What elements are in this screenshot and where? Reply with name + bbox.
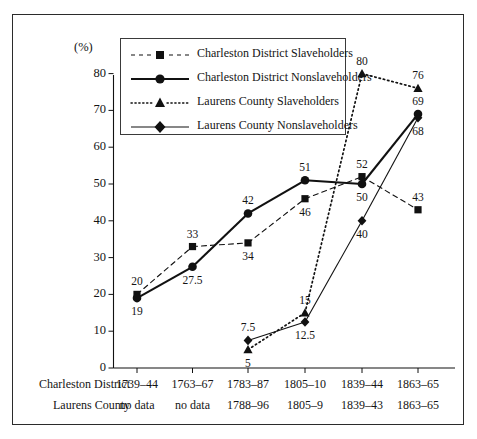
data-point-label: 51 <box>296 161 314 173</box>
legend-label-1: Charleston District Nonslaveholders <box>197 70 372 85</box>
data-point <box>358 173 365 180</box>
data-point-label: 12.5 <box>290 329 321 341</box>
data-point-label: 27.5 <box>177 274 208 286</box>
legend-item-0: Charleston District Slaveholders <box>121 43 347 67</box>
data-point-label: 52 <box>353 158 371 170</box>
y-tick-label: 20 <box>74 286 106 301</box>
data-point-label: 20 <box>128 275 146 287</box>
legend-marker-circle-solid <box>129 67 191 91</box>
legend-label-2: Laurens County Slaveholders <box>197 94 339 109</box>
data-point-label: 19 <box>128 305 146 317</box>
data-point <box>414 206 421 213</box>
data-point-label: 15 <box>296 294 314 306</box>
data-point-label: 46 <box>296 206 314 218</box>
data-point <box>301 317 310 327</box>
data-point-label: 34 <box>239 250 257 262</box>
data-point-label: 43 <box>409 191 427 203</box>
data-point <box>188 263 197 272</box>
data-point <box>301 195 308 202</box>
chart-legend: Charleston District Slaveholders Charles… <box>120 38 346 135</box>
y-axis-unit-label: (%) <box>74 40 93 55</box>
data-point-label: 68 <box>409 125 427 137</box>
legend-item-3: Laurens County Nonslaveholders <box>121 115 347 139</box>
y-tick-label: 60 <box>74 139 106 154</box>
data-point-label: 7.5 <box>236 321 261 333</box>
data-point-label: 76 <box>409 69 427 81</box>
data-point <box>358 180 367 189</box>
data-point-label: 80 <box>353 55 371 67</box>
data-point <box>189 243 196 250</box>
legend-marker-triangle-dotted <box>129 91 191 115</box>
data-point <box>244 239 251 246</box>
data-point-label: 40 <box>353 228 371 240</box>
data-point-label: 69 <box>409 95 427 107</box>
y-tick-label: 30 <box>74 250 106 265</box>
x-axis-category-label: 1863–65 <box>383 377 453 392</box>
legend-label-0: Charleston District Slaveholders <box>197 46 353 61</box>
y-tick-label: 50 <box>74 176 106 191</box>
series-line <box>193 243 249 247</box>
data-point-label: 33 <box>183 228 201 240</box>
legend-item-1: Charleston District Nonslaveholders <box>121 67 347 91</box>
legend-label-3: Laurens County Nonslaveholders <box>197 118 358 133</box>
legend-item-2: Laurens County Slaveholders <box>121 91 347 115</box>
y-tick-label: 80 <box>74 66 106 81</box>
data-point-label: 50 <box>353 191 371 203</box>
data-point <box>301 176 310 185</box>
legend-marker-diamond-solid <box>129 115 191 139</box>
data-point-label: 5 <box>242 357 254 369</box>
x-axis-category-label: 1863–65 <box>383 398 453 413</box>
data-point <box>133 294 142 303</box>
data-point <box>244 209 253 218</box>
data-point <box>244 336 253 346</box>
chart-figure: Charleston District Slaveholders Charles… <box>0 0 477 439</box>
data-point <box>243 345 252 353</box>
y-tick-label: 0 <box>74 360 106 375</box>
data-point-label: 42 <box>239 194 257 206</box>
y-tick-label: 40 <box>74 213 106 228</box>
y-tick-label: 70 <box>74 102 106 117</box>
y-tick-label: 10 <box>74 323 106 338</box>
data-point <box>358 216 367 226</box>
legend-marker-square-dashed <box>129 43 191 67</box>
series-line <box>305 180 362 184</box>
